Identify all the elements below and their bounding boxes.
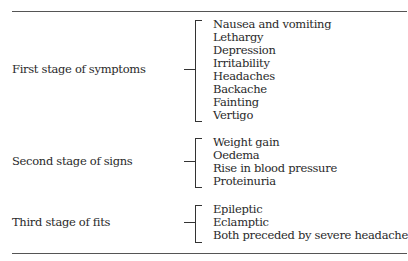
- stage-label: Third stage of fits: [12, 215, 110, 229]
- bracket: [195, 138, 202, 188]
- fit-list: Epileptic Eclamptic Both preceded by sev…: [213, 203, 408, 242]
- stage-group-third: Third stage of fits Epileptic Eclamptic …: [0, 203, 407, 247]
- symptom-list: Nausea and vomiting Lethargy Depression …: [213, 18, 331, 122]
- bracket: [195, 20, 202, 122]
- bracket-tick: [184, 69, 195, 70]
- sign-list: Weight gain Oedema Rise in blood pressur…: [213, 136, 337, 188]
- top-rule: [12, 11, 407, 12]
- stage-group-first: First stage of symptoms Nausea and vomit…: [0, 18, 407, 124]
- bracket-tick: [184, 222, 195, 223]
- stage-group-second: Second stage of signs Weight gain Oedema…: [0, 136, 407, 192]
- bracket-tick: [184, 161, 195, 162]
- bottom-rule: [12, 253, 407, 254]
- list-item: Vertigo: [213, 109, 331, 122]
- list-item: Both preceded by severe headache: [213, 229, 408, 242]
- stage-label: First stage of symptoms: [12, 62, 146, 76]
- list-item: Proteinuria: [213, 175, 337, 188]
- bracket: [195, 205, 202, 243]
- stage-label: Second stage of signs: [12, 154, 132, 168]
